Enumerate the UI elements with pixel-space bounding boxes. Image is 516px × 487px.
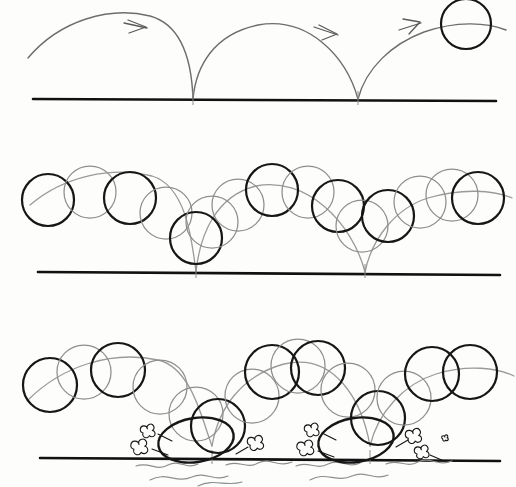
ball-circle (169, 387, 223, 441)
ball-circle (394, 176, 446, 228)
ball-circle (282, 166, 334, 218)
ball-circle (23, 358, 77, 412)
dust-puff (247, 435, 263, 450)
spacing-chart-no-squash (22, 164, 512, 278)
dust-puff (442, 435, 449, 441)
dust-puff (414, 445, 429, 459)
ball-circle (191, 399, 245, 453)
ball-circle (57, 345, 111, 399)
direction-arrow-1-icon (128, 20, 146, 33)
direction-arrow-2-icon (319, 25, 337, 40)
ball-circle (133, 360, 187, 414)
speed-streak (322, 433, 336, 440)
motion-arc (28, 13, 193, 99)
ball-circle (405, 347, 459, 401)
ball-circle (336, 200, 388, 252)
speed-streak (236, 447, 248, 454)
impact-shock-line (198, 482, 242, 486)
ground-line (38, 272, 500, 275)
squash-stretch-with-impact-fx (23, 339, 514, 486)
dust-puff (140, 424, 155, 438)
ball-circle (170, 212, 222, 264)
dust-puff (304, 423, 319, 437)
ball-circle (312, 180, 364, 232)
ball-circle (91, 343, 145, 397)
impact-shock-line (150, 475, 228, 480)
drawing-canvas (0, 0, 516, 487)
animation-timing-sheet (0, 0, 516, 487)
ball-circle (443, 345, 497, 399)
motion-arc (370, 368, 514, 446)
arc-path-only (28, 0, 506, 105)
ball-circle (104, 172, 156, 224)
impact-shock-line (226, 461, 292, 465)
dust-puff (297, 440, 314, 456)
ball-circle (362, 190, 414, 242)
ball-circle (246, 164, 298, 216)
ground-line (33, 99, 496, 101)
speed-streak (396, 440, 408, 447)
dust-puff (131, 439, 148, 455)
impact-shock-line (310, 474, 388, 480)
dust-puff (405, 428, 421, 443)
motion-arc (358, 24, 506, 99)
motion-arc (28, 357, 212, 446)
